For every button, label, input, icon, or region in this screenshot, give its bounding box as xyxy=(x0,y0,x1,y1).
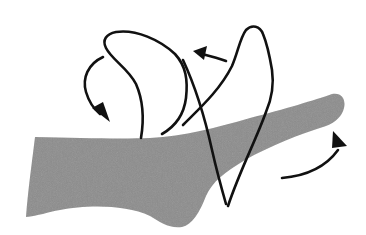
arrow-top-left-icon xyxy=(193,46,226,61)
bandage-strand-left-inner xyxy=(104,32,186,138)
arrow-down-left-icon xyxy=(85,57,110,122)
foot-silhouette xyxy=(26,94,345,228)
bandage-diagram: Figure-of-eight bandage wrapping around … xyxy=(0,0,366,235)
diagram-canvas xyxy=(0,0,366,235)
